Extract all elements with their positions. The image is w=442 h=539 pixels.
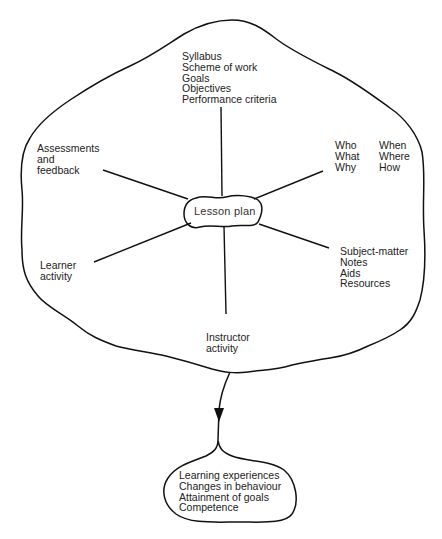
spoke-lower-left — [94, 223, 191, 262]
node-upper-right-line: Why — [335, 162, 360, 173]
node-top-line: Scheme of work — [182, 62, 277, 73]
flow-arrow-line — [218, 372, 230, 440]
node-top-line: Performance criteria — [182, 94, 277, 105]
node-bottom-line: activity — [206, 343, 250, 354]
node-upper-left: Assessments and feedback — [37, 143, 99, 175]
node-upper-left-line: and — [37, 154, 99, 165]
node-upper-right-line: How — [379, 162, 410, 173]
node-upper-right-line: What — [335, 151, 360, 162]
node-lower-left: Learner activity — [40, 260, 76, 282]
node-upper-right-col1: Who What Why — [335, 140, 360, 172]
node-upper-left-line: feedback — [37, 165, 99, 176]
spoke-upper-right — [254, 171, 323, 199]
node-bottom: Instructor activity — [206, 332, 250, 354]
node-lower-right-line: Resources — [340, 278, 408, 289]
spoke-upper-left — [103, 170, 188, 199]
outcome-node: Learning experiences Changes in behaviou… — [179, 470, 281, 513]
node-lower-right: Subject-matter Notes Aids Resources — [340, 246, 408, 289]
node-lower-left-line: activity — [40, 271, 76, 282]
center-node-label: Lesson plan — [194, 205, 256, 217]
outcome-line: Competence — [179, 502, 281, 513]
node-top: Syllabus Scheme of work Goals Objectives… — [182, 51, 277, 105]
spoke-bottom — [224, 226, 226, 314]
node-lower-right-line: Notes — [340, 257, 408, 268]
outcome-line: Changes in behaviour — [179, 481, 281, 492]
spoke-lower-right — [259, 224, 329, 248]
spoke-top — [221, 107, 222, 196]
node-upper-right-line: Where — [379, 151, 410, 162]
node-upper-right-col2: When Where How — [379, 140, 410, 172]
arrow-head-icon — [214, 408, 224, 422]
